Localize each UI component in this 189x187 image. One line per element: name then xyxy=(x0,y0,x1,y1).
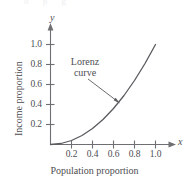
y-axis-title: Income proportion xyxy=(14,61,24,136)
annotation-arrowhead xyxy=(114,98,120,104)
y-tick-label-1: 1.0 xyxy=(20,40,42,50)
x-tick-label-5: 1.0 xyxy=(144,150,167,160)
x-axis-arrowhead xyxy=(169,142,177,148)
annotation-line-1: Lorenz xyxy=(63,57,107,67)
y-axis-variable-label: y xyxy=(50,13,54,23)
x-tick-label-3: 0.6 xyxy=(102,150,125,160)
annotation-arrow-line xyxy=(88,79,117,101)
x-tick-label-2: 0.4 xyxy=(81,150,104,160)
x-tick-label-1: 0.2 xyxy=(60,150,83,160)
y-axis-arrowhead xyxy=(48,23,54,31)
x-tick-label-4: 0.8 xyxy=(123,150,146,160)
x-axis-title: Population proportion xyxy=(0,166,189,176)
annotation-line-2: curve xyxy=(63,68,107,78)
x-axis-variable-label: x xyxy=(178,137,182,147)
lorenz-curve-figure: o p g y x 1.0 xyxy=(0,0,189,187)
